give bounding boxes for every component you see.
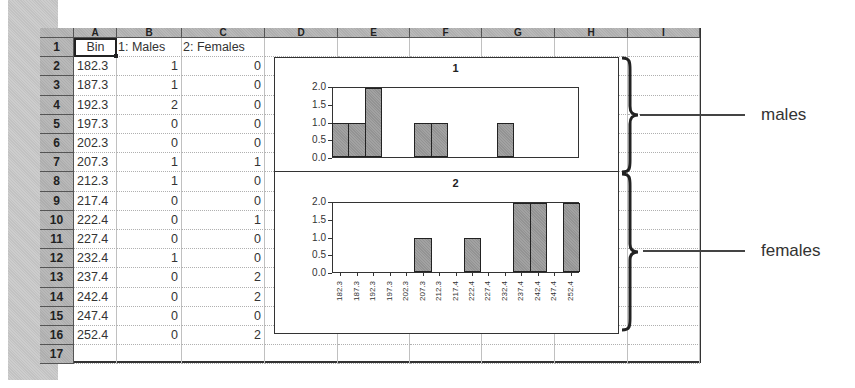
- chart-1-bar[interactable]: [431, 123, 448, 158]
- cell-c2[interactable]: 0: [182, 57, 265, 76]
- cell-b2[interactable]: 1: [117, 57, 182, 76]
- cell-a4[interactable]: 192.3: [74, 96, 117, 115]
- row-header-10[interactable]: 10: [40, 211, 74, 230]
- cell-a14[interactable]: 242.4: [74, 288, 117, 307]
- cell-i1[interactable]: [628, 38, 700, 57]
- chart-2-bar[interactable]: [414, 238, 431, 273]
- cell-b16[interactable]: 0: [117, 326, 182, 345]
- chart-1-bar[interactable]: [497, 123, 514, 158]
- cell-a13[interactable]: 237.4: [74, 268, 117, 287]
- cell-e1[interactable]: [338, 38, 410, 57]
- cell-b11[interactable]: 0: [117, 230, 182, 249]
- select-all-corner[interactable]: [40, 28, 74, 38]
- row-header-9[interactable]: 9: [40, 192, 74, 211]
- row-header-6[interactable]: 6: [40, 134, 74, 153]
- cell-c10[interactable]: 1: [182, 211, 265, 230]
- cell-g1[interactable]: [482, 38, 555, 57]
- cell-h17[interactable]: [555, 345, 628, 364]
- cell-a17[interactable]: [74, 345, 117, 364]
- cell-b12[interactable]: 1: [117, 249, 182, 268]
- column-header-c[interactable]: C: [182, 28, 265, 38]
- row-header-11[interactable]: 11: [40, 230, 74, 249]
- row-header-4[interactable]: 4: [40, 96, 74, 115]
- row-header-2[interactable]: 2: [40, 57, 74, 76]
- row-header-3[interactable]: 3: [40, 76, 74, 95]
- row-header-16[interactable]: 16: [40, 326, 74, 345]
- cell-c17[interactable]: [182, 345, 265, 364]
- cell-c15[interactable]: 0: [182, 307, 265, 326]
- column-header-e[interactable]: E: [338, 28, 410, 38]
- cell-b3[interactable]: 1: [117, 76, 182, 95]
- chart-1-bar[interactable]: [365, 88, 382, 157]
- cell-c4[interactable]: 0: [182, 96, 265, 115]
- cell-b5[interactable]: 0: [117, 115, 182, 134]
- cell-b8[interactable]: 1: [117, 172, 182, 191]
- chart-1-bar[interactable]: [332, 123, 349, 158]
- cell-c11[interactable]: 0: [182, 230, 265, 249]
- cell-c3[interactable]: 0: [182, 76, 265, 95]
- cell-d1[interactable]: [265, 38, 338, 57]
- cell-c7[interactable]: 1: [182, 153, 265, 172]
- column-header-f[interactable]: F: [410, 28, 482, 38]
- chart-1-bar[interactable]: [414, 123, 431, 158]
- cell-a8[interactable]: 212.3: [74, 172, 117, 191]
- row-header-14[interactable]: 14: [40, 288, 74, 307]
- cell-a2[interactable]: 182.3: [74, 57, 117, 76]
- cell-h1[interactable]: [555, 38, 628, 57]
- row-header-8[interactable]: 8: [40, 172, 74, 191]
- cell-a5[interactable]: 197.3: [74, 115, 117, 134]
- column-header-b[interactable]: B: [117, 28, 182, 38]
- cell-c8[interactable]: 0: [182, 172, 265, 191]
- cell-f1[interactable]: [410, 38, 482, 57]
- cell-c6[interactable]: 0: [182, 134, 265, 153]
- cell-a15[interactable]: 247.4: [74, 307, 117, 326]
- cell-b7[interactable]: 1: [117, 153, 182, 172]
- chart-2-bar[interactable]: [530, 203, 547, 272]
- cell-a12[interactable]: 232.4: [74, 249, 117, 268]
- chart-2-bar[interactable]: [563, 203, 580, 272]
- cell-c12[interactable]: 0: [182, 249, 265, 268]
- fill-handle[interactable]: [114, 54, 118, 58]
- cell-c14[interactable]: 2: [182, 288, 265, 307]
- column-header-d[interactable]: D: [265, 28, 338, 38]
- cell-c5[interactable]: 0: [182, 115, 265, 134]
- chart-2-bar[interactable]: [464, 238, 481, 273]
- cell-c1[interactable]: 2: Females: [182, 38, 265, 57]
- cell-c16[interactable]: 2: [182, 326, 265, 345]
- cell-b9[interactable]: 0: [117, 192, 182, 211]
- cell-i17[interactable]: [628, 345, 700, 364]
- cell-a10[interactable]: 222.4: [74, 211, 117, 230]
- chart-2-bar[interactable]: [513, 203, 530, 272]
- column-header-h[interactable]: H: [555, 28, 628, 38]
- column-header-g[interactable]: G: [482, 28, 555, 38]
- row-header-17[interactable]: 17: [40, 345, 74, 364]
- cell-f17[interactable]: [410, 345, 482, 364]
- cell-b14[interactable]: 0: [117, 288, 182, 307]
- row-header-5[interactable]: 5: [40, 115, 74, 134]
- cell-a3[interactable]: 187.3: [74, 76, 117, 95]
- cell-d17[interactable]: [265, 345, 338, 364]
- cell-b17[interactable]: [117, 345, 182, 364]
- row-header-7[interactable]: 7: [40, 153, 74, 172]
- cell-a16[interactable]: 252.4: [74, 326, 117, 345]
- cell-e17[interactable]: [338, 345, 410, 364]
- row-header-12[interactable]: 12: [40, 249, 74, 268]
- cell-b15[interactable]: 0: [117, 307, 182, 326]
- cell-b4[interactable]: 2: [117, 96, 182, 115]
- chart-1-bar[interactable]: [348, 123, 365, 158]
- cell-b6[interactable]: 0: [117, 134, 182, 153]
- cell-a11[interactable]: 227.4: [74, 230, 117, 249]
- cell-b10[interactable]: 0: [117, 211, 182, 230]
- row-header-13[interactable]: 13: [40, 268, 74, 287]
- cell-g17[interactable]: [482, 345, 555, 364]
- cell-a9[interactable]: 217.4: [74, 192, 117, 211]
- cell-b1[interactable]: 1: Males: [117, 38, 182, 57]
- column-header-i[interactable]: I: [628, 28, 700, 38]
- cell-a7[interactable]: 207.3: [74, 153, 117, 172]
- row-header-15[interactable]: 15: [40, 307, 74, 326]
- row-header-1[interactable]: 1: [40, 38, 74, 57]
- cell-a1[interactable]: Bin: [74, 38, 117, 57]
- cell-a6[interactable]: 202.3: [74, 134, 117, 153]
- cell-c9[interactable]: 0: [182, 192, 265, 211]
- cell-b13[interactable]: 0: [117, 268, 182, 287]
